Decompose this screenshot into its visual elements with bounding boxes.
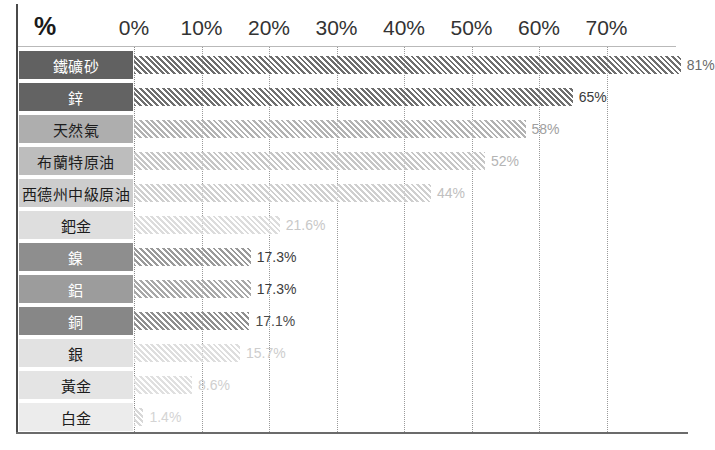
bar <box>134 216 280 234</box>
bar-track: 58% <box>134 113 676 145</box>
bar <box>134 152 485 170</box>
bar-track: 65% <box>134 81 676 113</box>
category-label-cell: 銅 <box>18 306 134 336</box>
axis-tick-label: 10% <box>167 16 237 40</box>
category-label-cell: 西德州中級原油 <box>18 178 134 208</box>
category-label-cell: 鎳 <box>18 242 134 272</box>
bar-value-label: 17.1% <box>255 313 295 329</box>
bar-track: 21.6% <box>134 209 676 241</box>
bar-track: 81% <box>134 49 676 81</box>
bar-value-label: 58% <box>532 121 560 137</box>
bar-track: 17.3% <box>134 273 676 305</box>
plot-area: 鐵礦砂81%鋅65%天然氣58%布蘭特原油52%西德州中級原油44%鈀金21.6… <box>18 46 676 431</box>
category-label-cell: 鋅 <box>18 82 134 112</box>
axis-tick-label: 40% <box>369 16 439 40</box>
bar <box>134 56 681 74</box>
bar-value-label: 44% <box>437 185 465 201</box>
bar-row: 鈀金21.6% <box>18 209 676 241</box>
category-label-cell: 銀 <box>18 338 134 368</box>
axis-tick-label: 50% <box>437 16 507 40</box>
bar <box>134 88 573 106</box>
bar-value-label: 21.6% <box>286 217 326 233</box>
axis-tick-label: 20% <box>234 16 304 40</box>
bar-value-label: 1.4% <box>149 409 181 425</box>
bar-value-label: 17.3% <box>257 249 297 265</box>
bar-row: 布蘭特原油52% <box>18 145 676 177</box>
bar-track: 52% <box>134 145 676 177</box>
category-label-cell: 布蘭特原油 <box>18 146 134 176</box>
category-label-cell: 黃金 <box>18 370 134 400</box>
bar-value-label: 15.7% <box>246 345 286 361</box>
bar-row: 銀15.7% <box>18 337 676 369</box>
bar-track: 17.3% <box>134 241 676 273</box>
bar-value-label: 8.6% <box>198 377 230 393</box>
bar <box>134 344 240 362</box>
bar <box>134 408 143 426</box>
plot-inner: 鐵礦砂81%鋅65%天然氣58%布蘭特原油52%西德州中級原油44%鈀金21.6… <box>18 47 676 432</box>
bar-value-label: 52% <box>491 153 519 169</box>
bar-value-label: 65% <box>579 89 607 105</box>
bar <box>134 120 526 138</box>
bar-row: 鐵礦砂81% <box>18 49 676 81</box>
axis-tick-label: 0% <box>99 16 169 40</box>
category-label-cell: 鈀金 <box>18 210 134 240</box>
bar-value-label: 17.3% <box>257 281 297 297</box>
category-label-cell: 鐵礦砂 <box>18 50 134 80</box>
bar <box>134 280 251 298</box>
bar-row: 鋅65% <box>18 81 676 113</box>
bar-row: 鎳17.3% <box>18 241 676 273</box>
bar-track: 44% <box>134 177 676 209</box>
axis-tick-label: 30% <box>302 16 372 40</box>
bar-row: 西德州中級原油44% <box>18 177 676 209</box>
bar-track: 17.1% <box>134 305 676 337</box>
bar-row: 天然氣58% <box>18 113 676 145</box>
bar-row: 銅17.1% <box>18 305 676 337</box>
bar-row: 白金1.4% <box>18 401 676 433</box>
unit-symbol-label: % <box>34 12 55 41</box>
bar <box>134 184 431 202</box>
bar-row: 鋁17.3% <box>18 273 676 305</box>
bar-track: 15.7% <box>134 337 676 369</box>
category-label-cell: 白金 <box>18 402 134 432</box>
category-label-cell: 天然氣 <box>18 114 134 144</box>
bar-value-label: 81% <box>687 57 715 73</box>
bar <box>134 248 251 266</box>
axis-header: % 0%10%20%30%40%50%60%70% <box>0 6 696 44</box>
bar <box>134 312 249 330</box>
category-label-cell: 鋁 <box>18 274 134 304</box>
axis-tick-label: 60% <box>504 16 574 40</box>
bar-row: 黃金8.6% <box>18 369 676 401</box>
bar-track: 1.4% <box>134 401 676 433</box>
bar <box>134 376 192 394</box>
bar-track: 8.6% <box>134 369 676 401</box>
axis-tick-label: 70% <box>572 16 642 40</box>
